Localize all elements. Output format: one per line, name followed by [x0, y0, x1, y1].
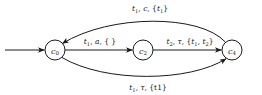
transition-label-c2-c4: t2, τ, {t1, t2} [166, 37, 213, 47]
transition-label-c0-c4: t1, τ, {t1} [129, 83, 166, 93]
transition-label-c4-c0: t1, c, {t1} [132, 4, 168, 14]
automaton-canvas: c0 c2 c4 t1, c, {t1} t1, a, { } t2, τ, {… [0, 0, 262, 95]
transition-label-c0-c2: t1, a, { } [84, 37, 116, 47]
automaton-diagram: c0 c2 c4 t1, c, {t1} t1, a, { } t2, τ, {… [0, 0, 262, 95]
